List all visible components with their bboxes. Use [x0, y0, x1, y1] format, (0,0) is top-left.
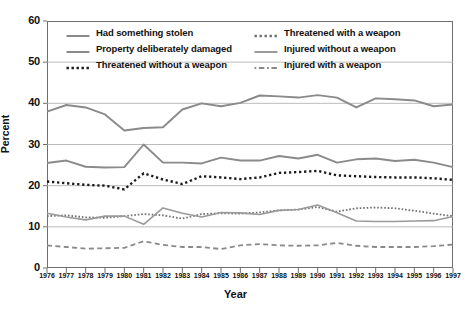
x-axis-title: Year — [0, 288, 471, 300]
series-line-1 — [47, 145, 453, 168]
legend-item[interactable]: Injured without a weapon — [254, 43, 446, 54]
legend-label: Threatened without a weapon — [96, 59, 227, 70]
legend-item[interactable]: Injured with a weapon — [254, 59, 446, 70]
legend-line-swatch-icon — [66, 43, 90, 53]
legend-item[interactable]: Threatened without a weapon — [66, 59, 254, 70]
y-tick-label: 60 — [0, 14, 40, 26]
y-tick-label: 50 — [0, 55, 40, 67]
legend-item[interactable]: Had something stolen — [66, 27, 254, 38]
series-line-2 — [47, 171, 453, 190]
legend-item[interactable]: Property deliberately damaged — [66, 43, 254, 54]
chart-legend: Had something stolenThreatened with a we… — [66, 24, 446, 72]
legend-label: Injured without a weapon — [284, 43, 396, 54]
legend-label: Property deliberately damaged — [96, 43, 232, 54]
series-line-5 — [47, 241, 453, 249]
legend-line-swatch-icon — [66, 27, 90, 37]
legend-label: Injured with a weapon — [284, 59, 381, 70]
legend-item[interactable]: Threatened with a weapon — [254, 27, 446, 38]
y-axis-ticks — [43, 21, 47, 268]
x-tick-label: 1997 — [438, 272, 468, 279]
series-line-0 — [47, 95, 453, 130]
y-tick-label: 20 — [0, 179, 40, 191]
y-tick-label: 40 — [0, 96, 40, 108]
legend-line-swatch-icon — [254, 43, 278, 53]
legend-label: Threatened with a weapon — [284, 27, 400, 38]
y-axis-title: Percent — [0, 115, 11, 154]
legend-line-swatch-icon — [254, 27, 278, 37]
data-series-group — [47, 95, 453, 249]
legend-line-swatch-icon — [66, 59, 90, 69]
chart-figure: 0102030405060 Percent 197619771978197919… — [0, 0, 471, 310]
y-tick-label: 10 — [0, 220, 40, 232]
gridlines — [47, 62, 453, 227]
legend-label: Had something stolen — [96, 27, 193, 38]
legend-line-swatch-icon — [254, 59, 278, 69]
